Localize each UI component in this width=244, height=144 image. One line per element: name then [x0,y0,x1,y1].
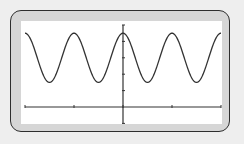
function-graph [0,0,244,144]
axes [25,25,221,123]
